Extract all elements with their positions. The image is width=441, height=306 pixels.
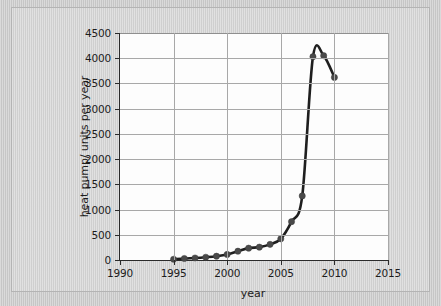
data-point [267, 241, 273, 247]
y-axis-tick [115, 83, 120, 84]
y-axis-tick-label: 2000 [85, 153, 111, 165]
y-axis-tick [115, 210, 120, 211]
x-axis-tick-label: 1995 [161, 267, 187, 279]
x-axis-tick-label: 2010 [321, 267, 347, 279]
y-axis-tick-label: 1000 [85, 204, 111, 216]
y-axis-title: heat pump/ units per year [78, 33, 92, 260]
y-gridline [120, 210, 388, 211]
y-axis-tick-label: 4000 [85, 52, 111, 64]
x-axis-tick [334, 260, 335, 265]
y-axis-tick [115, 159, 120, 160]
y-axis-tick-label: 3000 [85, 103, 111, 115]
y-axis-tick [115, 109, 120, 110]
y-axis-title-label: heat pump/ units per year [79, 76, 92, 218]
y-axis-tick-label: 3500 [85, 77, 111, 89]
x-axis-tick-label: 2000 [214, 267, 240, 279]
data-point [256, 244, 262, 250]
y-gridline [120, 134, 388, 135]
y-axis-tick [115, 58, 120, 59]
data-point [192, 255, 198, 261]
x-axis-tick [120, 260, 121, 265]
y-axis-tick-label: 2500 [85, 128, 111, 140]
data-point [181, 255, 187, 261]
x-axis-tick [281, 260, 282, 265]
data-point [203, 254, 209, 260]
x-gridline [174, 33, 175, 260]
y-axis-tick-label: 1500 [85, 178, 111, 190]
data-point [299, 193, 305, 199]
y-axis-tick-label: 4500 [85, 27, 111, 39]
x-axis-tick-label: 2015 [375, 267, 401, 279]
x-axis-tick [388, 260, 389, 265]
x-axis-tick-label: 1990 [107, 267, 133, 279]
y-gridline [120, 109, 388, 110]
data-point [213, 253, 219, 259]
y-axis-tick [115, 134, 120, 135]
x-axis-tick [174, 260, 175, 265]
y-axis-tick-label: 500 [92, 229, 111, 241]
y-gridline [120, 235, 388, 236]
y-axis-tick [115, 33, 120, 34]
x-axis-tick-label: 2005 [268, 267, 294, 279]
data-line [174, 45, 335, 259]
x-axis-tick [227, 260, 228, 265]
x-gridline [388, 33, 389, 260]
y-axis-tick [115, 184, 120, 185]
x-axis-title: year [119, 287, 387, 300]
y-gridline [120, 159, 388, 160]
data-point [288, 219, 294, 225]
y-gridline [120, 184, 388, 185]
data-series-layer [120, 33, 388, 260]
y-gridline [120, 58, 388, 59]
plot-area: 0500100015002000250030003500400045001990… [119, 33, 388, 261]
x-gridline [227, 33, 228, 260]
x-gridline [334, 33, 335, 260]
x-gridline [281, 33, 282, 260]
chart-figure: heat pump/ units per year 05001000150020… [11, 7, 430, 292]
y-axis-tick [115, 235, 120, 236]
y-axis-tick-label: 0 [105, 254, 111, 266]
y-gridline [120, 33, 388, 34]
screenshot-page: heat pump/ units per year 05001000150020… [0, 0, 441, 306]
y-gridline [120, 83, 388, 84]
data-point [246, 245, 252, 251]
data-point [235, 248, 241, 254]
